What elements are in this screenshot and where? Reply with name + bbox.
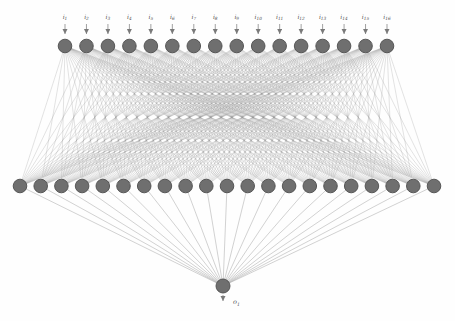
input-node-11 <box>273 39 287 53</box>
hidden-node-14 <box>282 179 296 193</box>
input-node-3 <box>101 39 115 53</box>
hidden-output-connection <box>223 186 289 286</box>
hidden-output-connection <box>223 186 413 286</box>
input-node-14 <box>337 39 351 53</box>
input-label-6: i6 <box>170 13 175 21</box>
input-label-9: i9 <box>234 13 239 21</box>
hidden-output-connection <box>223 186 351 286</box>
input-label-11: i11 <box>276 13 283 21</box>
output-node <box>216 279 230 293</box>
input-node-2 <box>80 39 94 53</box>
hidden-node-6 <box>117 179 131 193</box>
input-node-7 <box>187 39 201 53</box>
hidden-node-9 <box>179 179 193 193</box>
input-label-16: i16 <box>383 13 391 21</box>
hidden-output-connection <box>61 186 223 286</box>
input-node-16 <box>380 39 394 53</box>
hidden-node-13 <box>262 179 276 193</box>
hidden-node-19 <box>386 179 400 193</box>
input-node-4 <box>123 39 137 53</box>
input-node-12 <box>294 39 308 53</box>
input-node-10 <box>251 39 265 53</box>
input-label-13: i13 <box>319 13 327 21</box>
hidden-node-3 <box>55 179 69 193</box>
hidden-node-20 <box>407 179 421 193</box>
input-label-1: i1 <box>63 13 68 21</box>
hidden-node-12 <box>241 179 255 193</box>
input-arrows <box>65 24 387 34</box>
input-node-8 <box>208 39 222 53</box>
input-label-7: i7 <box>191 13 196 21</box>
input-label-2: i2 <box>84 13 89 21</box>
output-label: o1 <box>233 298 240 307</box>
input-label-12: i12 <box>297 13 305 21</box>
output-layer <box>216 279 230 301</box>
input-node-6 <box>166 39 180 53</box>
hidden-node-2 <box>34 179 48 193</box>
hidden-node-8 <box>158 179 172 193</box>
input-label-15: i15 <box>362 13 370 21</box>
hidden-output-connection <box>186 186 223 286</box>
input-node-1 <box>58 39 72 53</box>
input-label-10: i10 <box>255 13 263 21</box>
input-label-5: i5 <box>149 13 154 21</box>
hidden-node-1 <box>13 179 27 193</box>
hidden-output-connection <box>82 186 223 286</box>
hidden-node-21 <box>427 179 441 193</box>
input-node-13 <box>316 39 330 53</box>
hidden-layer <box>13 179 441 193</box>
hidden-node-17 <box>344 179 358 193</box>
hidden-output-connection <box>223 186 393 286</box>
input-hidden-connections <box>20 46 434 186</box>
hidden-node-4 <box>75 179 89 193</box>
input-layer <box>58 39 394 53</box>
hidden-node-15 <box>303 179 317 193</box>
input-hidden-connection <box>20 46 151 186</box>
hidden-node-11 <box>220 179 234 193</box>
input-label-14: i14 <box>340 13 348 21</box>
input-label-4: i4 <box>127 13 132 21</box>
hidden-output-connection <box>223 186 310 286</box>
hidden-output-connection <box>223 186 434 286</box>
hidden-node-5 <box>96 179 110 193</box>
hidden-output-connection <box>144 186 223 286</box>
input-node-5 <box>144 39 158 53</box>
hidden-output-connection <box>41 186 223 286</box>
hidden-output-connections <box>20 186 434 286</box>
input-node-9 <box>230 39 244 53</box>
hidden-output-connection <box>20 186 223 286</box>
input-node-15 <box>359 39 373 53</box>
hidden-node-18 <box>365 179 379 193</box>
network-figure: i1i2i3i4i5i6i7i8i9i10i11i12i13i14i15i16o… <box>0 0 455 321</box>
hidden-output-connection <box>223 186 331 286</box>
hidden-node-7 <box>137 179 151 193</box>
hidden-node-10 <box>200 179 214 193</box>
hidden-node-16 <box>324 179 338 193</box>
input-label-8: i8 <box>213 13 218 21</box>
input-label-3: i3 <box>106 13 111 21</box>
network-diagram: i1i2i3i4i5i6i7i8i9i10i11i12i13i14i15i16o… <box>0 0 455 321</box>
